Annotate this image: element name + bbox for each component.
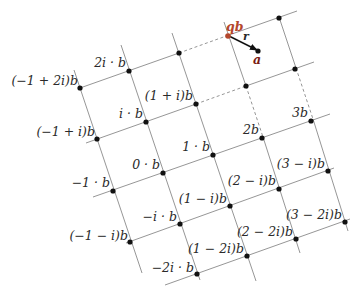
point-3-m2: [342, 219, 347, 224]
label-qb: qb: [226, 19, 244, 34]
label-m1-1: (−1 + i)b: [36, 124, 95, 139]
point-0-0: [160, 170, 165, 175]
label-0-m2: −2i · b: [152, 260, 194, 275]
point-3-2: [276, 15, 281, 20]
label-1-m1: (1 − i)b: [179, 191, 227, 206]
label-2-0: 2b: [242, 122, 259, 137]
point-m1-2: [77, 85, 82, 90]
col-line-m3-top: [279, 17, 296, 68]
point-3-m1: [325, 168, 330, 173]
label-3-0: 3b: [292, 105, 308, 120]
label-0-2: 2i · b: [93, 55, 126, 70]
label-m1-m1: (−1 − i)b: [69, 228, 128, 243]
label-1-m2: (1 − 2i)b: [188, 241, 244, 256]
point-3-0: [308, 118, 313, 123]
label-1-1: (1 + i)b: [145, 88, 193, 103]
point-0-2: [126, 68, 131, 73]
point-m1-0: [110, 188, 115, 193]
point-1-2: [176, 50, 181, 55]
point-2-1: [243, 83, 248, 88]
label-0-1: i · b: [119, 106, 143, 121]
row-line-n1-dashed: [196, 86, 246, 104]
point-1-0: [210, 152, 215, 157]
label-a: a: [253, 52, 261, 67]
label-0-m1: −i · b: [143, 209, 177, 224]
point-1-m1: [227, 203, 232, 208]
point-3-1: [292, 66, 297, 71]
label-1-0: 1 · b: [182, 139, 210, 154]
point-0-1: [143, 119, 148, 124]
label-m1-0: −1 · b: [72, 175, 110, 190]
label-m1-2: (−1 + 2i)b: [11, 73, 78, 88]
point-2-0: [259, 135, 264, 140]
label-r: r: [243, 30, 250, 43]
label-2-m1: (2 − i)b: [228, 173, 276, 188]
point-0-m1: [177, 221, 182, 226]
label-0-0: 0 · b: [132, 157, 160, 172]
row-line-n2-dashed: [179, 35, 229, 53]
label-3-m2: (3 − 2i)b: [286, 207, 342, 222]
label-3-m1: (3 − i)b: [277, 156, 325, 171]
label-2-m2: (2 − 2i)b: [237, 224, 293, 239]
point-1-1: [193, 101, 198, 106]
point-1-m2: [244, 253, 249, 258]
lattice-diagram: (−1 + 2i)b 2i · b (−1 + i)b i · b (1 + i…: [0, 0, 358, 294]
point-m1-m1: [127, 239, 132, 244]
point-0-m2: [194, 271, 199, 276]
point-2-m2: [293, 236, 298, 241]
point-qb: [225, 33, 231, 39]
point-m1-1: [94, 136, 99, 141]
point-2-m1: [276, 186, 281, 191]
